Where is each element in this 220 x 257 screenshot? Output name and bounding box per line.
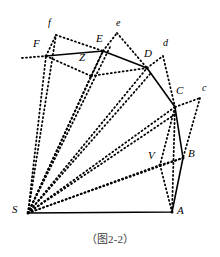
dotted-segment-F-left-tail bbox=[22, 56, 46, 58]
dotted-segment-V-to-B bbox=[160, 158, 183, 165]
vertex-dot-V bbox=[159, 164, 162, 167]
label-c: c bbox=[202, 83, 206, 93]
label-C: C bbox=[176, 85, 183, 96]
vertex-dot-D bbox=[146, 67, 149, 70]
vertex-dot-C bbox=[174, 106, 177, 109]
label-E: E bbox=[96, 33, 103, 44]
vertex-dot-Z bbox=[90, 75, 93, 78]
label-e: e bbox=[116, 18, 120, 28]
solid-polyline-SABCDEF bbox=[28, 51, 183, 213]
label-B: B bbox=[188, 148, 195, 159]
figure-caption: （图2-2） bbox=[0, 230, 220, 246]
vertex-dot-S bbox=[27, 212, 30, 215]
label-D: D bbox=[144, 48, 152, 59]
dotted-lines-group bbox=[22, 33, 200, 213]
vertex-dot-E bbox=[102, 50, 105, 53]
dotted-segment-S-to-F bbox=[28, 56, 46, 213]
label-S: S bbox=[12, 204, 18, 215]
dotted-segment-V-to-A bbox=[160, 165, 172, 212]
label-V: V bbox=[148, 150, 155, 161]
label-Z: Z bbox=[79, 52, 85, 63]
vertex-dot-B bbox=[182, 157, 185, 160]
vertex-dot-A bbox=[171, 211, 174, 214]
label-f: f bbox=[48, 18, 51, 28]
label-A: A bbox=[177, 205, 184, 216]
dotted-segment-C-to-c bbox=[175, 98, 200, 107]
figure-container: SABCDEFVZcdef （图2-2） bbox=[0, 0, 220, 257]
vertex-dot-F bbox=[45, 55, 48, 58]
label-d: d bbox=[163, 38, 168, 48]
label-F: F bbox=[33, 38, 40, 49]
